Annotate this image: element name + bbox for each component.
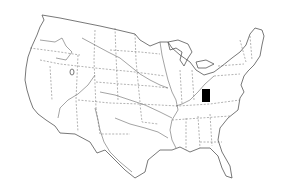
arkansas-river [100, 92, 172, 118]
mississippi-river [160, 42, 178, 148]
us-coastline-border [25, 15, 264, 178]
red-river [115, 118, 168, 138]
location-marker [202, 89, 210, 102]
us-outline-map [0, 0, 281, 191]
snake-columbia-river [40, 38, 72, 60]
rio-grande [95, 108, 132, 172]
great-salt-lake [70, 69, 74, 75]
state-boundaries [30, 28, 252, 150]
